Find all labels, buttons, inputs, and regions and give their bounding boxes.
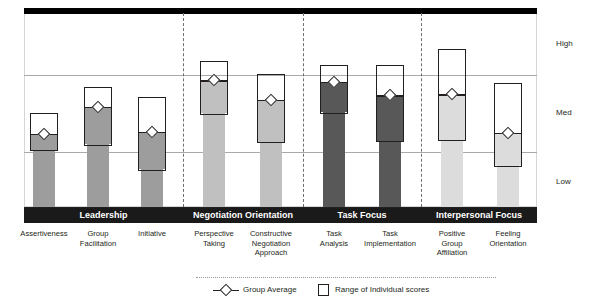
- group-strip-label-interpersonal-focus: Interpersonal Focus: [421, 209, 537, 222]
- legend-average-label: Group Average: [243, 285, 297, 294]
- axis-band-label-high: High: [556, 39, 573, 48]
- competency-range-chart: HighMedLowLeadershipNegotiation Orientat…: [0, 0, 591, 298]
- axis-band-label-low: Low: [556, 177, 571, 186]
- group-separator-2: [303, 13, 304, 207]
- legend-average-marker: [220, 284, 233, 297]
- legend-range-label: Range of Individual scores: [335, 285, 429, 294]
- legend-range-swatch: [318, 284, 329, 296]
- tick-label-constructive-negotiation-approach: Constructive Negotiation Approach: [235, 229, 307, 258]
- group-strip-label-leadership: Leadership: [24, 209, 183, 222]
- range-fill: [377, 95, 402, 141]
- legend-separator: [196, 277, 496, 278]
- tick-label-feeling-orientation: Feeling Orientation: [472, 229, 544, 248]
- group-strip-label-task-focus: Task Focus: [303, 209, 421, 222]
- top-black-bar: [24, 8, 537, 14]
- axis-band-label-med: Med: [556, 108, 572, 117]
- group-separator-1: [183, 13, 184, 207]
- group-separator-3: [421, 13, 422, 207]
- range-fill: [439, 94, 464, 139]
- group-strip-label-negotiation-orientation: Negotiation Orientation: [183, 209, 303, 222]
